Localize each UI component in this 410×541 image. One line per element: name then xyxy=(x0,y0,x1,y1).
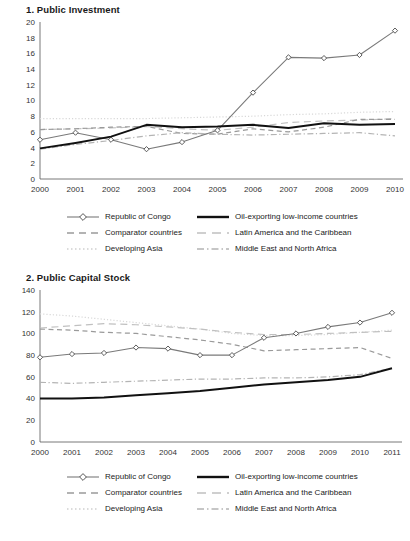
legend-label: Developing Asia xyxy=(105,504,162,514)
x-axis-tick-label: 2011 xyxy=(383,448,401,457)
x-axis-tick-label: 2004 xyxy=(159,448,177,457)
legend-item-latin-america-and-the-caribbean[interactable]: Latin America and the Caribbean xyxy=(192,488,410,498)
legend-item-middle-east-and-north-africa[interactable]: Middle East and North Africa xyxy=(192,244,410,254)
thick-solid-line-icon xyxy=(196,212,230,222)
x-axis-tick-label: 2004 xyxy=(173,185,191,194)
thick-solid-line-icon xyxy=(196,472,230,482)
series-line xyxy=(40,313,392,358)
legend-label: Comparator countries xyxy=(105,228,182,238)
line-with-diamond-marker-icon xyxy=(66,472,100,482)
x-axis-tick-label: 2007 xyxy=(280,185,298,194)
legend-item-latin-america-and-the-caribbean[interactable]: Latin America and the Caribbean xyxy=(192,228,410,238)
line-with-diamond-marker-icon xyxy=(66,212,100,222)
data-point-marker xyxy=(179,140,184,145)
x-axis-tick-label: 2001 xyxy=(63,448,81,457)
x-axis-tick-label: 2009 xyxy=(351,185,369,194)
legend-row: Comparator countries Latin America and t… xyxy=(0,488,410,498)
y-axis-tick-label: 6 xyxy=(31,128,36,137)
legend-label: Republic of Congo xyxy=(105,212,171,222)
dotted-line-icon xyxy=(66,244,100,254)
legend-item-oil-exporting-low-income-countries[interactable]: Oil-exporting low-income countries xyxy=(192,472,410,482)
data-point-marker xyxy=(389,310,394,315)
legend-item-comparator-countries[interactable]: Comparator countries xyxy=(0,228,192,238)
y-axis-tick-label: 20 xyxy=(26,18,35,27)
x-axis-tick-label: 2006 xyxy=(244,185,262,194)
chart-1-legend: Republic of Congo Oil-exporting low-inco… xyxy=(0,212,410,254)
x-axis-tick-label: 2000 xyxy=(31,185,49,194)
legend-row: Republic of Congo Oil-exporting low-inco… xyxy=(0,212,410,222)
y-axis-tick-label: 20 xyxy=(26,416,35,425)
data-point-marker xyxy=(325,324,330,329)
panel-public-investment: 1. Public Investment 0246810121416182020… xyxy=(0,0,410,270)
x-axis-tick-label: 2000 xyxy=(31,448,49,457)
legend-row: Comparator countries Latin America and t… xyxy=(0,228,410,238)
dotted-line-icon xyxy=(66,504,100,514)
dash-dot-line-icon xyxy=(196,244,230,254)
long-dash-line-icon xyxy=(196,488,230,498)
y-axis-tick-label: 16 xyxy=(26,49,35,58)
data-point-marker xyxy=(73,130,78,135)
legend-label: Oil-exporting low-income countries xyxy=(235,212,358,222)
chart-2-legend: Republic of Congo Oil-exporting low-inco… xyxy=(0,472,410,514)
chart-2-title: 2. Public Capital Stock xyxy=(26,272,130,283)
y-axis-tick-label: 4 xyxy=(31,144,36,153)
x-axis-tick-label: 2010 xyxy=(386,185,404,194)
legend-row: Developing Asia Middle East and North Af… xyxy=(0,504,410,514)
data-point-marker xyxy=(101,350,106,355)
data-point-marker xyxy=(357,320,362,325)
long-dash-line-icon xyxy=(196,228,230,238)
x-axis-tick-label: 2003 xyxy=(138,185,156,194)
dashed-line-icon xyxy=(66,228,100,238)
legend-item-republic-of-congo[interactable]: Republic of Congo xyxy=(0,472,192,482)
y-axis-tick-label: 40 xyxy=(26,394,35,403)
series-line xyxy=(40,368,392,383)
legend-label: Comparator countries xyxy=(105,488,182,498)
legend-label: Oil-exporting low-income countries xyxy=(235,472,358,482)
legend-label: Republic of Congo xyxy=(105,472,171,482)
x-axis-tick-label: 2007 xyxy=(255,448,273,457)
legend-item-oil-exporting-low-income-countries[interactable]: Oil-exporting low-income countries xyxy=(192,212,410,222)
y-axis-tick-label: 60 xyxy=(26,373,35,382)
data-point-marker xyxy=(321,56,326,61)
x-axis-tick-label: 2002 xyxy=(95,448,113,457)
x-axis-tick-label: 2005 xyxy=(209,185,227,194)
legend-item-republic-of-congo[interactable]: Republic of Congo xyxy=(0,212,192,222)
chart-1-title: 1. Public Investment xyxy=(26,4,120,15)
x-axis-tick-label: 2008 xyxy=(315,185,333,194)
y-axis-tick-label: 2 xyxy=(31,159,36,168)
chart-1-svg: 0246810121416182020002001200220032004200… xyxy=(0,16,410,210)
y-axis-tick-label: 18 xyxy=(26,34,35,43)
legend-item-middle-east-and-north-africa[interactable]: Middle East and North Africa xyxy=(192,504,410,514)
legend-label: Latin America and the Caribbean xyxy=(235,228,352,238)
data-point-marker xyxy=(69,351,74,356)
y-axis-tick-label: 80 xyxy=(26,351,35,360)
data-point-marker xyxy=(229,353,234,358)
data-point-marker xyxy=(261,335,266,340)
data-point-marker xyxy=(133,345,138,350)
chart-2-svg: 0204060801001201402000200120022003200420… xyxy=(0,284,410,470)
legend-item-comparator-countries[interactable]: Comparator countries xyxy=(0,488,192,498)
legend-label: Middle East and North Africa xyxy=(235,244,336,254)
data-point-marker xyxy=(165,346,170,351)
data-point-marker xyxy=(37,355,42,360)
x-axis-tick-label: 2005 xyxy=(191,448,209,457)
y-axis-tick-label: 14 xyxy=(26,65,35,74)
legend-item-developing-asia[interactable]: Developing Asia xyxy=(0,244,192,254)
legend-row: Republic of Congo Oil-exporting low-inco… xyxy=(0,472,410,482)
x-axis-tick-label: 2008 xyxy=(287,448,305,457)
panel-public-capital-stock: 2. Public Capital Stock 0204060801001201… xyxy=(0,270,410,541)
data-point-marker xyxy=(197,353,202,358)
y-axis-tick-label: 120 xyxy=(22,308,36,317)
legend-item-developing-asia[interactable]: Developing Asia xyxy=(0,504,192,514)
x-axis-tick-label: 2003 xyxy=(127,448,145,457)
series-line xyxy=(40,133,395,149)
x-axis-tick-label: 2006 xyxy=(223,448,241,457)
chart-1-plot-area: 0246810121416182020002001200220032004200… xyxy=(0,16,410,210)
legend-label: Middle East and North Africa xyxy=(235,504,336,514)
y-axis-tick-label: 8 xyxy=(31,112,36,121)
data-point-marker xyxy=(144,147,149,152)
dashed-line-icon xyxy=(66,488,100,498)
series-line xyxy=(40,111,395,118)
dash-dot-line-icon xyxy=(196,504,230,514)
data-point-marker xyxy=(37,137,42,142)
